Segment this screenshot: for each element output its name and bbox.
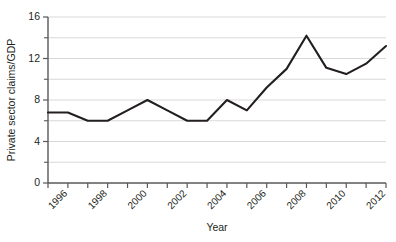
x-axis-ticks xyxy=(48,183,386,188)
x-tick-label: 2010 xyxy=(324,187,348,211)
y-axis-tick-labels: 0481216 xyxy=(28,10,40,188)
x-tick-label: 2000 xyxy=(125,187,149,211)
line-chart: 0481216 19961998200020022004200620082010… xyxy=(0,0,396,242)
chart-container: 0481216 19961998200020022004200620082010… xyxy=(0,0,396,242)
x-axis-tick-labels: 199619982000200220042006200820102012 xyxy=(46,187,388,211)
x-axis-title: Year xyxy=(206,221,228,233)
y-tick-label: 8 xyxy=(34,93,40,105)
gridlines xyxy=(48,17,386,162)
x-tick-label: 2008 xyxy=(284,187,308,211)
x-tick-label: 2002 xyxy=(165,187,189,211)
y-axis-title: Private sector claims/GDP xyxy=(5,39,17,162)
x-tick-label: 2004 xyxy=(205,187,229,211)
y-tick-label: 4 xyxy=(34,135,40,147)
y-axis-ticks xyxy=(43,17,48,183)
x-tick-label: 2012 xyxy=(364,187,388,211)
x-tick-label: 2006 xyxy=(245,187,269,211)
y-tick-label: 0 xyxy=(34,176,40,188)
x-tick-label: 1996 xyxy=(46,187,70,211)
x-tick-label: 1998 xyxy=(86,187,110,211)
data-series-line xyxy=(48,36,386,121)
y-tick-label: 12 xyxy=(28,52,40,64)
y-tick-label: 16 xyxy=(28,10,40,22)
